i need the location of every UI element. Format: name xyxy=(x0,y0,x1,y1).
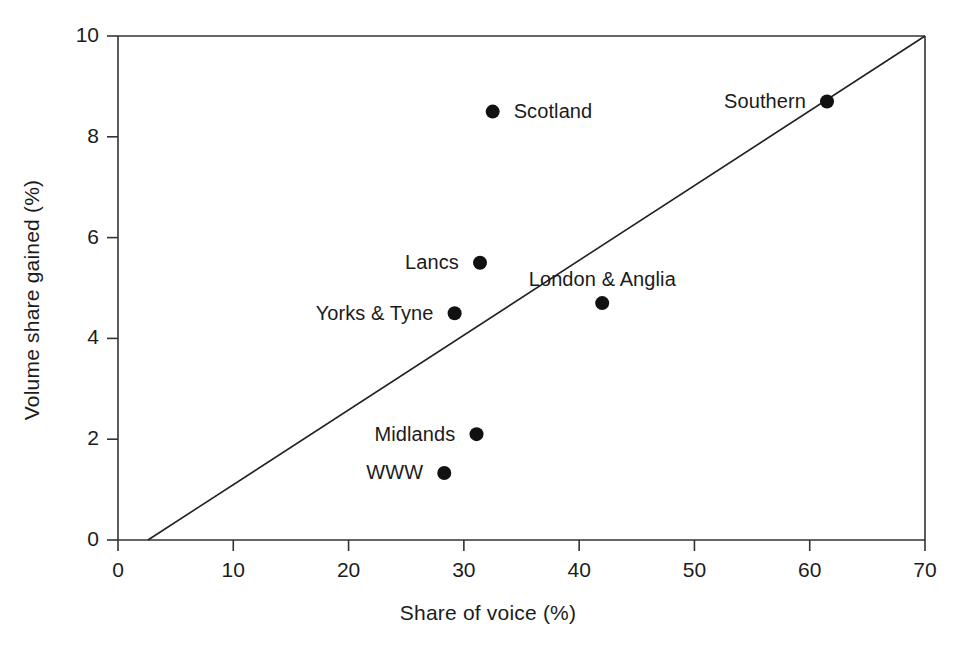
plot-canvas xyxy=(0,0,976,654)
x-tick-label: 70 xyxy=(895,558,955,582)
y-tick-label: 4 xyxy=(39,325,99,349)
x-tick-label: 20 xyxy=(319,558,379,582)
data-point[interactable] xyxy=(470,427,484,441)
data-point-label: WWW xyxy=(366,461,423,484)
y-tick-label: 10 xyxy=(39,23,99,47)
scatter-chart: Share of voice (%) Volume share gained (… xyxy=(0,0,976,654)
y-tick-label: 0 xyxy=(39,527,99,551)
x-tick-label: 0 xyxy=(88,558,148,582)
data-point-label: Midlands xyxy=(375,423,456,446)
x-axis-title: Share of voice (%) xyxy=(0,601,976,625)
data-point-label: Southern xyxy=(724,90,806,113)
data-point[interactable] xyxy=(486,105,500,119)
x-tick-label: 10 xyxy=(203,558,263,582)
data-point-label: Yorks & Tyne xyxy=(316,302,434,325)
y-tick-label: 2 xyxy=(39,426,99,450)
y-tick-label: 8 xyxy=(39,124,99,148)
data-point[interactable] xyxy=(595,296,609,310)
y-tick-label: 6 xyxy=(39,225,99,249)
y-axis-title: Volume share gained (%) xyxy=(20,140,44,460)
x-tick-label: 40 xyxy=(549,558,609,582)
data-point[interactable] xyxy=(820,95,834,109)
data-point-label: London & Anglia xyxy=(529,268,676,291)
data-point[interactable] xyxy=(437,466,451,480)
x-tick-label: 60 xyxy=(780,558,840,582)
x-tick-label: 50 xyxy=(664,558,724,582)
data-point[interactable] xyxy=(473,256,487,270)
data-point-label: Lancs xyxy=(405,251,459,274)
data-point-label: Scotland xyxy=(514,100,593,123)
x-tick-label: 30 xyxy=(434,558,494,582)
data-point[interactable] xyxy=(448,306,462,320)
